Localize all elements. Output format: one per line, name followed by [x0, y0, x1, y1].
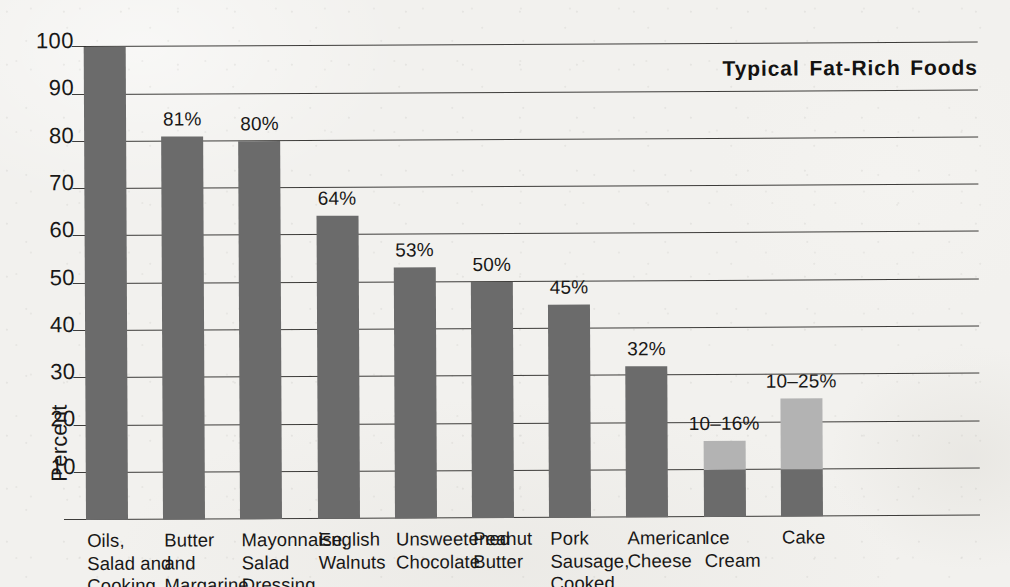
bar-value-label-cake: 10–25%	[746, 370, 856, 393]
bar-value-label-american-cheese: 32%	[592, 338, 702, 361]
bar-segment	[471, 281, 514, 518]
bar-segment	[548, 305, 591, 518]
bar-segment-upper-range	[703, 441, 745, 470]
bar-value-label-mayonnaise-salad-dressing: 80%	[204, 112, 314, 135]
bar-segment	[394, 268, 437, 519]
y-tick-label-40: 40	[13, 314, 75, 336]
gridline-20	[86, 420, 980, 425]
category-label-oils-salad-and-cooking: Oils, Salad and Cooking	[87, 530, 172, 587]
gridline-60	[85, 231, 979, 236]
y-tick-label-80: 80	[12, 125, 74, 147]
fat-rich-foods-bar-chart: 100908070605040302010 Percent Typical Fa…	[0, 0, 1010, 587]
bar-ice-cream	[703, 441, 745, 517]
bar-segment	[239, 141, 283, 520]
gridline-100	[84, 42, 978, 47]
y-tick-label-50: 50	[13, 267, 75, 289]
bar-oils-salad-and-cooking	[84, 47, 128, 520]
bar-value-label-english-walnuts: 64%	[282, 188, 392, 211]
bar-mayonnaise-salad-dressing	[239, 141, 283, 520]
y-tick-label-90: 90	[12, 77, 74, 99]
category-label-cake: Cake	[782, 526, 826, 549]
category-label-american-cheese: American Cheese	[627, 527, 706, 573]
plot-area: 100908070605040302010 Percent Typical Fa…	[0, 0, 1010, 587]
bar-segment	[316, 216, 359, 519]
gridline-70	[84, 184, 978, 189]
y-tick-label-60: 60	[13, 219, 75, 241]
category-label-ice-cream: Ice Cream	[705, 527, 761, 572]
gridline-40	[85, 326, 979, 331]
y-tick-label-70: 70	[12, 172, 74, 194]
bar-value-label-ice-cream: 10–16%	[669, 413, 779, 436]
y-tick-label-100: 100	[12, 30, 74, 52]
bar-unsweetened-chocolate	[394, 268, 437, 519]
category-label-butter-and-margarine: Butter and Margarine	[164, 529, 249, 587]
axis-baseline	[86, 515, 980, 520]
y-tick-stub-0	[64, 519, 88, 520]
gridline-10	[86, 467, 980, 472]
bar-segment-lower-range	[703, 469, 745, 517]
bar-segment	[84, 47, 128, 520]
bar-peanut-butter	[471, 281, 514, 518]
bar-value-label-peanut-butter: 50%	[437, 253, 547, 276]
y-axis-label: Percent	[46, 373, 73, 513]
bar-segment-upper-range	[780, 398, 822, 469]
bar-segment	[161, 136, 205, 519]
chart-title: Typical Fat-Rich Foods	[722, 56, 977, 81]
bar-segment	[626, 366, 669, 518]
gridline-90	[84, 89, 978, 94]
category-label-peanut-butter: Peanut Butter	[473, 528, 532, 573]
category-label-pork-sausage-cooked: Pork Sausage, Cooked	[550, 527, 629, 587]
gridline-80	[84, 136, 978, 141]
bar-american-cheese	[626, 366, 669, 518]
bar-butter-and-margarine	[161, 136, 205, 519]
bar-english-walnuts	[316, 216, 359, 519]
bar-value-label-pork-sausage-cooked: 45%	[514, 276, 624, 299]
category-label-english-walnuts: English Walnuts	[319, 529, 386, 574]
bar-segment-lower-range	[781, 469, 823, 517]
bar-pork-sausage-cooked	[548, 305, 591, 518]
bar-cake	[780, 398, 823, 516]
